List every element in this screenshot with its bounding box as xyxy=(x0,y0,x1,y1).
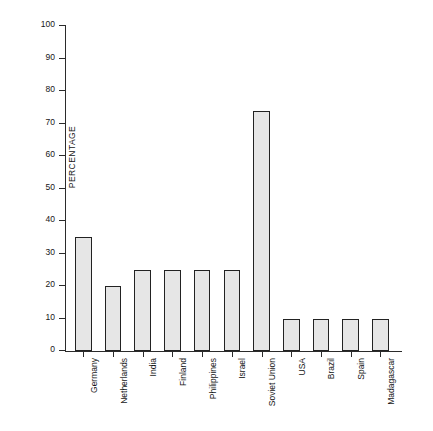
x-tick xyxy=(143,352,144,357)
bar xyxy=(372,319,389,352)
category-label: Spain xyxy=(355,358,367,380)
x-tick xyxy=(172,352,173,357)
category-label: India xyxy=(147,358,159,376)
y-tick-label: 20 xyxy=(46,279,55,290)
bar xyxy=(134,270,151,351)
y-tick-label: 60 xyxy=(46,149,55,160)
category-label: Finland xyxy=(177,358,189,386)
bar xyxy=(105,286,122,351)
y-tick-label: 70 xyxy=(46,117,55,128)
y-tick-10: 10 xyxy=(59,318,66,319)
x-tick xyxy=(113,352,114,357)
bar xyxy=(75,237,92,351)
x-tick xyxy=(232,352,233,357)
y-tick-80: 80 xyxy=(59,90,66,91)
y-tick-90: 90 xyxy=(59,58,66,59)
y-axis-line xyxy=(65,26,66,352)
x-tick xyxy=(380,352,381,357)
y-tick-0: 0 xyxy=(59,350,66,351)
y-tick-20: 20 xyxy=(59,285,66,286)
category-label: Brazil xyxy=(325,358,337,379)
category-label: Madagascar xyxy=(385,358,397,405)
y-tick-label: 10 xyxy=(46,312,55,323)
category-label: Philippines xyxy=(207,358,219,399)
x-tick xyxy=(351,352,352,357)
x-tick xyxy=(291,352,292,357)
category-label: Soviet Union xyxy=(266,358,278,406)
y-tick-50: 50 xyxy=(59,188,66,189)
bar xyxy=(342,319,359,352)
category-label: Israel xyxy=(236,358,248,379)
category-label: Netherlands xyxy=(118,358,130,404)
y-tick-100: 100 xyxy=(59,25,66,26)
y-tick-30: 30 xyxy=(59,253,66,254)
plot-area: 0102030405060708090100 xyxy=(65,26,402,352)
y-tick-60: 60 xyxy=(59,155,66,156)
y-tick-label: 40 xyxy=(46,214,55,225)
y-tick-label: 50 xyxy=(46,182,55,193)
bar xyxy=(313,319,330,352)
x-tick xyxy=(83,352,84,357)
y-tick-70: 70 xyxy=(59,123,66,124)
y-tick-label: 0 xyxy=(50,344,55,355)
x-tick xyxy=(262,352,263,357)
x-tick xyxy=(202,352,203,357)
category-label: Germany xyxy=(88,358,100,393)
bar xyxy=(253,111,270,352)
bar xyxy=(224,270,241,351)
bar xyxy=(194,270,211,351)
x-tick xyxy=(321,352,322,357)
y-tick-40: 40 xyxy=(59,220,66,221)
y-tick-label: 80 xyxy=(46,84,55,95)
y-tick-label: 100 xyxy=(41,19,55,30)
category-label: USA xyxy=(296,358,308,375)
y-tick-label: 30 xyxy=(46,247,55,258)
bar-chart-figure: PERCENTAGE 0102030405060708090100 German… xyxy=(0,0,433,431)
bar xyxy=(283,319,300,352)
bar xyxy=(164,270,181,351)
y-tick-label: 90 xyxy=(46,52,55,63)
